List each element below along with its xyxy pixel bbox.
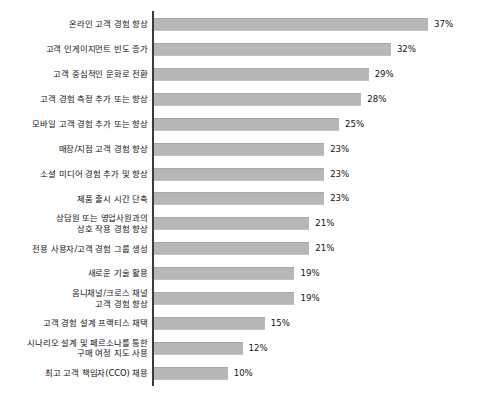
bar-with-value: 25% xyxy=(154,118,365,131)
bar-row: 최고 고객 책임자(CCO) 채용10% xyxy=(0,361,478,386)
bar-with-value: 37% xyxy=(154,18,454,31)
bar-value-label: 25% xyxy=(345,118,364,131)
bar xyxy=(154,217,310,230)
bar-row: 소셜 미디어 경험 추가 및 향상23% xyxy=(0,162,478,187)
bar xyxy=(154,342,243,355)
bar-with-value: 21% xyxy=(154,217,335,230)
bar-with-value: 23% xyxy=(154,192,350,205)
bar-chart: 온라인 고객 경험 향상37%고객 인게이지먼트 빈도 증가32%고객 중심적인… xyxy=(0,0,478,413)
bar xyxy=(154,267,295,280)
bar-row: 시나리오 설계 및 페르소나를 통한 구매 여정 지도 사용12% xyxy=(0,336,478,361)
bar-with-value: 21% xyxy=(154,242,335,255)
bar-value-label: 12% xyxy=(249,342,268,355)
bar-row: 매장/지점 고객 경험 향상23% xyxy=(0,137,478,162)
category-label: 모바일 고객 경험 추가 또는 향상 xyxy=(0,119,148,129)
bar-with-value: 15% xyxy=(154,317,290,330)
bar xyxy=(154,143,325,156)
bar-with-value: 23% xyxy=(154,168,350,181)
bar-value-label: 32% xyxy=(397,43,416,56)
bar-with-value: 12% xyxy=(154,342,268,355)
bar xyxy=(154,192,325,205)
bar-row: 제품 출시 시간 단축23% xyxy=(0,186,478,211)
bar-value-label: 37% xyxy=(434,18,453,31)
bar-with-value: 19% xyxy=(154,292,320,305)
bar-value-label: 10% xyxy=(234,367,253,380)
bar xyxy=(154,93,362,106)
category-label: 시나리오 설계 및 페르소나를 통한 구매 여정 지도 사용 xyxy=(0,338,148,359)
bar xyxy=(154,43,391,56)
bar-with-value: 23% xyxy=(154,143,350,156)
bar-value-label: 29% xyxy=(375,68,394,81)
bar-value-label: 21% xyxy=(315,217,334,230)
category-label: 고객 중심적인 문화로 전환 xyxy=(0,69,148,79)
bar-value-label: 23% xyxy=(330,143,349,156)
bar-row: 고객 인게이지먼트 빈도 증가32% xyxy=(0,37,478,62)
category-label: 새로운 기술 활용 xyxy=(0,268,148,278)
plot-area: 온라인 고객 경험 향상37%고객 인게이지먼트 빈도 증가32%고객 중심적인… xyxy=(0,0,478,413)
bar xyxy=(154,118,339,131)
bar-row: 고객 경험 측정 추가 또는 향상28% xyxy=(0,87,478,112)
bar xyxy=(154,367,228,380)
bar xyxy=(154,317,265,330)
bar-value-label: 19% xyxy=(300,292,319,305)
bar-with-value: 10% xyxy=(154,367,253,380)
category-label: 제품 출시 시간 단축 xyxy=(0,194,148,204)
bar xyxy=(154,68,369,81)
bar-row: 옴니채널/크로스 채널 고객 경험 향상19% xyxy=(0,286,478,311)
category-label: 고객 경험 측정 추가 또는 향상 xyxy=(0,94,148,104)
bar-row: 온라인 고객 경험 향상37% xyxy=(0,12,478,37)
bar-value-label: 23% xyxy=(330,168,349,181)
bar-row: 상담원 또는 영업사원과의 상호 작용 경험 향상21% xyxy=(0,211,478,236)
bar-row: 모바일 고객 경험 추가 또는 향상25% xyxy=(0,112,478,137)
bar-value-label: 21% xyxy=(315,242,334,255)
category-label: 옴니채널/크로스 채널 고객 경험 향상 xyxy=(0,288,148,309)
category-label: 고객 인게이지먼트 빈도 증가 xyxy=(0,44,148,54)
bar-with-value: 19% xyxy=(154,267,320,280)
bar-with-value: 28% xyxy=(154,93,387,106)
bar-value-label: 28% xyxy=(367,93,386,106)
bar xyxy=(154,292,295,305)
bar xyxy=(154,18,429,31)
category-label: 매장/지점 고객 경험 향상 xyxy=(0,144,148,154)
category-label: 최고 고객 책임자(CCO) 채용 xyxy=(0,368,148,378)
bar-row: 고객 경험 설계 프랙티스 채택15% xyxy=(0,311,478,336)
bar-row: 전용 사용자/고객 경험 그룹 생성21% xyxy=(0,236,478,261)
category-label: 온라인 고객 경험 향상 xyxy=(0,19,148,29)
bar-with-value: 32% xyxy=(154,43,417,56)
bar-value-label: 19% xyxy=(300,267,319,280)
bar xyxy=(154,242,310,255)
category-label: 전용 사용자/고객 경험 그룹 생성 xyxy=(0,244,148,254)
category-label: 고객 경험 설계 프랙티스 채택 xyxy=(0,318,148,328)
bar xyxy=(154,168,325,181)
bar-value-label: 23% xyxy=(330,192,349,205)
bar-with-value: 29% xyxy=(154,68,394,81)
category-label: 소셜 미디어 경험 추가 및 향상 xyxy=(0,169,148,179)
bar-value-label: 15% xyxy=(271,317,290,330)
category-label: 상담원 또는 영업사원과의 상호 작용 경험 향상 xyxy=(0,213,148,234)
bar-row: 새로운 기술 활용19% xyxy=(0,261,478,286)
bar-row: 고객 중심적인 문화로 전환29% xyxy=(0,62,478,87)
